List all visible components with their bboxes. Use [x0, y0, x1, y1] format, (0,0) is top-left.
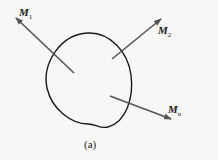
moment-arrow-m1 — [16, 18, 74, 73]
figure-caption: (a) — [84, 138, 96, 150]
body-outline — [46, 33, 131, 128]
moment-arrow-mn — [110, 96, 171, 119]
label-mn: Mn — [168, 103, 181, 118]
label-m1: M1 — [19, 6, 32, 21]
moment-arrow-m2 — [112, 19, 161, 59]
diagram-canvas — [0, 0, 218, 160]
label-m2: M2 — [158, 24, 171, 39]
